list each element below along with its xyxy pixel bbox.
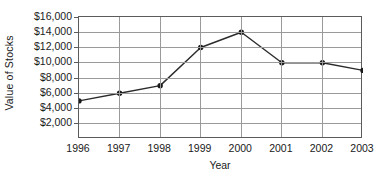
y-axis-tick-label: $6,000 <box>40 87 72 98</box>
y-axis-tick-mark <box>74 78 79 79</box>
vertical-gridline <box>119 17 120 137</box>
y-axis-tick-mark <box>74 47 79 48</box>
y-axis-title-label: Value of Stocks <box>3 35 15 110</box>
vertical-gridline <box>322 17 323 137</box>
x-axis-tick-label: 2002 <box>310 142 333 154</box>
vertical-gridline <box>160 17 161 137</box>
y-axis-tick-label: $10,000 <box>34 56 72 67</box>
y-axis-tick-label: $4,000 <box>40 102 72 113</box>
x-axis-tick-label: 1997 <box>107 142 130 154</box>
vertical-gridline <box>200 17 201 137</box>
horizontal-gridline <box>79 62 361 63</box>
vertical-gridline <box>281 17 282 137</box>
horizontal-gridline <box>79 78 361 79</box>
y-axis-tick-labels: $2,000$4,000$6,000$8,000$10,000$12,000$1… <box>18 0 75 145</box>
horizontal-gridline <box>79 123 361 124</box>
horizontal-gridline <box>79 108 361 109</box>
y-axis-tick-label: $2,000 <box>40 117 72 128</box>
plot-area <box>78 16 362 138</box>
horizontal-gridline <box>79 93 361 94</box>
horizontal-gridline <box>79 32 361 33</box>
x-axis-tick-label: 2001 <box>269 142 292 154</box>
y-axis-tick-label: $8,000 <box>40 72 72 83</box>
x-axis-tick-label: 2000 <box>229 142 252 154</box>
x-axis-title: Year <box>78 159 362 171</box>
y-axis-tick-label: $16,000 <box>34 11 72 22</box>
data-point-marker <box>79 98 82 103</box>
data-line <box>79 32 363 101</box>
y-axis-tick-mark <box>74 62 79 63</box>
y-axis-tick-mark <box>74 93 79 94</box>
horizontal-gridline <box>79 47 361 48</box>
x-axis-tick-label: 1998 <box>147 142 170 154</box>
vertical-gridline <box>241 17 242 137</box>
line-chart: Value of Stocks $2,000$4,000$6,000$8,000… <box>0 0 381 181</box>
y-axis-tick-mark <box>74 123 79 124</box>
x-axis-tick-label: 2003 <box>350 142 373 154</box>
x-axis-tick-labels: 19961997199819992000200120022003 <box>78 142 362 158</box>
y-axis-tick-label: $12,000 <box>34 41 72 52</box>
y-axis-tick-mark <box>74 17 79 18</box>
y-axis-title: Value of Stocks <box>0 0 18 145</box>
x-axis-tick-label: 1996 <box>66 142 89 154</box>
x-axis-tick-label: 1999 <box>188 142 211 154</box>
y-axis-tick-mark <box>74 32 79 33</box>
data-point-marker <box>360 68 363 73</box>
y-axis-tick-mark <box>74 108 79 109</box>
y-axis-tick-label: $14,000 <box>34 26 72 37</box>
